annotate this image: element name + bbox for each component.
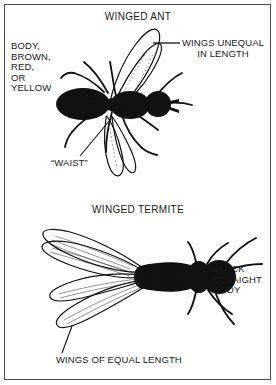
winged-ant-title: WINGED ANT [0, 11, 276, 22]
winged-ant-panel: WINGED ANT BODY, BROWN, RED, OR YELLOW W… [0, 0, 276, 192]
ant-body-color-callout: BODY, BROWN, RED, OR YELLOW [11, 41, 51, 94]
termite-black-straight-body-callout: BLACK STRAIGHT BODY [213, 264, 262, 296]
winged-termite-title: WINGED TERMITE [0, 204, 276, 215]
termite-wings-equal-callout: WINGS OF EQUAL LENGTH [56, 355, 182, 366]
ant-waist-callout: “WAIST” [51, 158, 88, 169]
ant-wings-unequal-callout: WINGS UNEQUAL IN LENGTH [182, 38, 264, 59]
insect-comparison-figure: WINGED ANT BODY, BROWN, RED, OR YELLOW W… [0, 0, 276, 385]
